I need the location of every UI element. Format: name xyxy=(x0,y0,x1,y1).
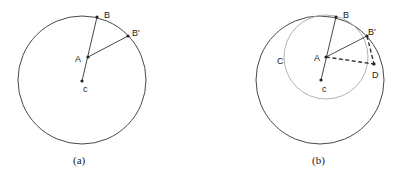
panel-b: B B' A c C D (b) xyxy=(256,10,384,167)
point-c xyxy=(80,79,83,82)
label-a: A xyxy=(75,54,81,64)
segment-c-b xyxy=(321,17,336,80)
point-c xyxy=(319,78,322,81)
label-c: c xyxy=(322,84,327,94)
label-d: D xyxy=(372,70,379,80)
diagram-canvas: B B' A c (a) B B' A c C D (b) xyxy=(0,0,399,175)
label-c: c xyxy=(83,84,88,94)
label-a: A xyxy=(314,53,320,63)
point-bprime xyxy=(126,34,129,37)
panel-a: B B' A c (a) xyxy=(18,10,146,167)
label-circle-c: C xyxy=(277,56,284,66)
label-b: B xyxy=(104,10,110,20)
segment-a-bprime xyxy=(326,36,367,57)
point-d xyxy=(372,62,375,65)
point-b xyxy=(95,15,98,18)
label-bprime: B' xyxy=(132,28,140,38)
label-b: B xyxy=(343,10,349,20)
label-bprime: B' xyxy=(368,27,376,37)
point-a xyxy=(86,55,89,58)
point-b xyxy=(334,15,337,18)
point-a xyxy=(324,55,327,58)
dashed-a-d xyxy=(326,57,374,64)
segment-c-b xyxy=(82,17,97,81)
caption-a: (a) xyxy=(73,154,86,167)
segment-a-bprime xyxy=(88,36,128,57)
caption-b: (b) xyxy=(312,154,325,167)
